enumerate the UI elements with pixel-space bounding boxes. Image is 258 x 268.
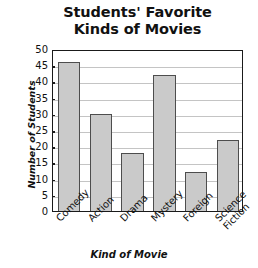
y-tick-label: 10 (24, 175, 48, 185)
bar-chart: Students' Favorite Kinds of Movies Numbe… (0, 0, 258, 268)
y-tick-mark (52, 99, 55, 101)
y-tick-label: 25 (24, 126, 48, 136)
y-tick-label: 50 (24, 45, 48, 55)
chart-title-line-1: Students' Favorite (30, 4, 245, 21)
chart-title: Students' Favorite Kinds of Movies (30, 4, 245, 38)
y-tick-mark (52, 163, 55, 165)
y-tick-mark (52, 196, 55, 198)
chart-title-line-2: Kinds of Movies (30, 21, 245, 38)
y-tick-label: 30 (24, 110, 48, 120)
bar-comedy (58, 62, 80, 211)
y-tick-label: 20 (24, 142, 48, 152)
y-tick-label: 5 (24, 191, 48, 201)
y-tick-mark (52, 180, 55, 182)
y-tick-label: 45 (24, 61, 48, 71)
x-axis-tick-labels: ComedyActionDramaMysteryForeignScienceFi… (0, 212, 258, 252)
y-tick-mark (52, 147, 55, 149)
y-axis-tick-labels: 50454035302520151050 (20, 50, 48, 212)
y-tick-label: 35 (24, 94, 48, 104)
y-tick-mark (52, 131, 55, 133)
y-tick-mark (52, 82, 55, 84)
y-tick-label: 40 (24, 77, 48, 87)
y-tick-mark (52, 115, 55, 117)
y-tick-mark (52, 66, 55, 68)
y-tick-label: 15 (24, 158, 48, 168)
x-axis-title: Kind of Movie (0, 249, 258, 260)
bar-mystery (153, 75, 175, 211)
